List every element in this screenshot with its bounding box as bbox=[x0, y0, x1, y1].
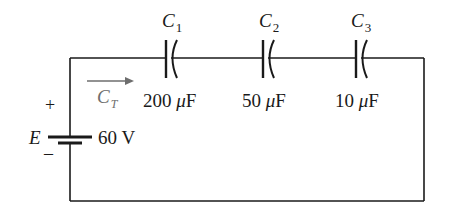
circuit-diagram bbox=[0, 0, 449, 206]
battery-symbol bbox=[48, 137, 92, 143]
capacitor-c1-symbol bbox=[166, 40, 177, 78]
battery-plus-sign: + bbox=[45, 96, 55, 114]
capacitor-c1-value: 200 μF bbox=[143, 91, 196, 110]
battery-minus-sign: – bbox=[44, 144, 53, 162]
battery-symbol-label: E bbox=[29, 128, 41, 147]
capacitor-c2-label: C2 bbox=[259, 11, 279, 30]
arrow-icon bbox=[87, 77, 134, 85]
battery-voltage-value: 60 V bbox=[98, 128, 135, 147]
capacitor-c2-symbol bbox=[263, 40, 274, 78]
capacitor-c1-label: C1 bbox=[162, 11, 182, 30]
capacitor-c2-value: 50 μF bbox=[242, 91, 286, 110]
capacitor-c3-symbol bbox=[356, 40, 367, 78]
capacitor-c3-label: C3 bbox=[351, 11, 371, 30]
total-capacitance-label: CT bbox=[97, 87, 117, 106]
capacitor-c3-value: 10 μF bbox=[335, 91, 379, 110]
